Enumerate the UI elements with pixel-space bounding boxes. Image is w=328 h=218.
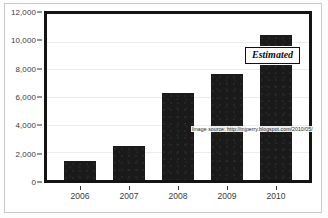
x-tick-label-2008: 2008 bbox=[169, 191, 188, 201]
plot-inner bbox=[47, 14, 309, 180]
bar-2008 bbox=[162, 93, 194, 180]
y-tick-label-12000: 12,000 bbox=[11, 8, 36, 17]
y-tick-mark-12000 bbox=[37, 12, 42, 13]
y-axis: 12,000 10,000 8,000 6,000 4,000 2,000 0 bbox=[0, 0, 44, 218]
source-credit-text: Image source: http://mjperry.blogspot.co… bbox=[191, 126, 314, 132]
y-tick-label-10000: 10,000 bbox=[11, 36, 36, 45]
bar-2006 bbox=[64, 161, 96, 180]
x-tick-mark-2009 bbox=[227, 186, 228, 190]
x-tick-label-2006: 2006 bbox=[71, 191, 90, 201]
estimated-annotation: Estimated bbox=[245, 47, 300, 64]
y-tick-label-4000: 4,000 bbox=[15, 121, 36, 130]
y-tick-mark-0 bbox=[37, 182, 42, 183]
x-tick-mark-2007 bbox=[129, 186, 130, 190]
x-tick-mark-2006 bbox=[80, 186, 81, 190]
plot-area bbox=[44, 11, 312, 183]
y-tick-mark-4000 bbox=[37, 125, 42, 126]
y-tick-mark-8000 bbox=[37, 68, 42, 69]
bar-chart-figure: 12,000 10,000 8,000 6,000 4,000 2,000 0 bbox=[0, 0, 328, 218]
y-tick-label-2000: 2,000 bbox=[15, 149, 36, 158]
x-tick-mark-2010 bbox=[276, 186, 277, 190]
y-tick-mark-10000 bbox=[37, 40, 42, 41]
y-tick-label-6000: 6,000 bbox=[15, 93, 36, 102]
y-tick-label-0: 0 bbox=[31, 178, 36, 187]
bar-2007 bbox=[113, 146, 145, 180]
y-tick-mark-2000 bbox=[37, 153, 42, 154]
x-tick-label-2007: 2007 bbox=[120, 191, 139, 201]
y-tick-label-8000: 8,000 bbox=[15, 64, 36, 73]
y-tick-mark-6000 bbox=[37, 97, 42, 98]
x-axis: 2006 2007 2008 2009 2010 bbox=[44, 186, 312, 204]
x-tick-mark-2008 bbox=[178, 186, 179, 190]
x-tick-label-2009: 2009 bbox=[218, 191, 237, 201]
x-tick-label-2010: 2010 bbox=[267, 191, 286, 201]
